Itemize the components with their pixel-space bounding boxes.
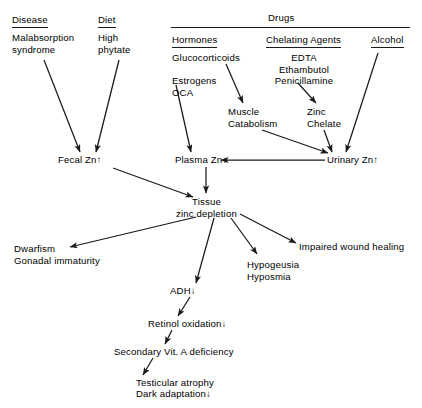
intermediate-muscle-catabolism: Muscle Catabolism (228, 106, 278, 129)
cause-hormone-list: Glucocorticoids Estrogens OCA (172, 52, 240, 98)
retinol-oxidation-change-arrow-icon: ↓ (221, 318, 226, 329)
compartment-urinary-zn: Urinary Zn↑ (327, 154, 378, 166)
compartment-fecal-zn: Fecal Zn↑ (58, 154, 101, 166)
outcome-hypogeusia-hyposmia: Hypogeusia Hyposmia (247, 259, 299, 282)
compartment-plasma-zn: Plasma Zn↓ (175, 154, 227, 166)
cascade-dark-adaptation: Dark adaptation↓ (136, 388, 211, 400)
group-header-alcohol: Alcohol (371, 34, 404, 48)
group-header-hormones: Hormones (172, 34, 217, 48)
cascade-retinol-oxidation: Retinol oxidation↓ (148, 318, 226, 330)
group-header-chelating-agents: Chelating Agents (266, 34, 341, 48)
group-header-drugs: Drugs (268, 12, 294, 24)
adh-change-arrow-icon: ↓ (191, 285, 196, 296)
cascade-testicular-atrophy: Testicular atrophy (136, 377, 214, 389)
intermediate-zinc-chelate: Zinc Chelate (307, 106, 341, 129)
plasma-zn-label: Plasma Zn (175, 154, 222, 165)
core-tissue-zinc-depletion: Tissue zinc depletion (160, 196, 253, 219)
outcome-dwarfism-gonadal-immaturity: Dwarfism Gonadal immaturity (14, 243, 100, 266)
cascade-adh: ADH↓ (170, 285, 196, 297)
urinary-zn-label: Urinary Zn (327, 154, 373, 165)
plasma-zn-change-arrow-icon: ↓ (222, 154, 227, 165)
outcome-impaired-wound-healing: Impaired wound healing (299, 241, 404, 253)
urinary-zn-change-arrow-icon: ↑ (373, 154, 378, 165)
group-header-diet: Diet (98, 14, 116, 28)
adh-label: ADH (170, 285, 191, 296)
fecal-zn-change-arrow-icon: ↑ (97, 154, 102, 165)
dark-adaptation-label: Dark adaptation (136, 388, 206, 399)
group-header-disease: Disease (12, 14, 48, 28)
retinol-oxidation-label: Retinol oxidation (148, 318, 221, 329)
cause-high-phytate: High phytate (98, 32, 131, 55)
cascade-secondary-vitamin-a-deficiency: Secondary Vit. A deficiency (114, 346, 234, 358)
cause-chelating-agent-list: EDTA Ethambutol Penicillamine (262, 52, 346, 87)
cause-malabsorption-syndrome: Malabsorption syndrome (12, 32, 74, 55)
drugs-group-rule (171, 27, 410, 28)
zinc-deficiency-flowchart: Disease Diet Drugs Hormones Chelating Ag… (0, 0, 422, 408)
dark-adaptation-change-arrow-icon: ↓ (206, 388, 211, 399)
fecal-zn-label: Fecal Zn (58, 154, 97, 165)
